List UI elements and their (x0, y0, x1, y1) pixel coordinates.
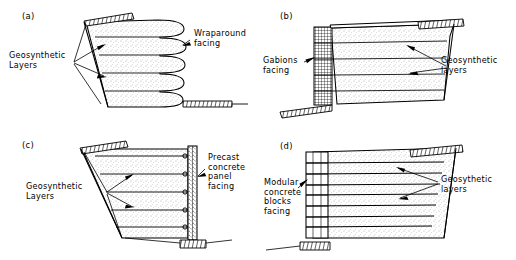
panel-c-label-geosynthetic-layers: Geosynthetic Layers (26, 182, 83, 201)
precast-concrete-panel-facing (188, 146, 197, 240)
panel-a-label-geosynthetic-layers: Geosynthetic Layers (9, 51, 66, 70)
figure-geosynthetic-wall-facings: (a) (0, 0, 516, 260)
panel-d-label-geosynthetic-layers: Geosythetic layers (441, 175, 492, 194)
panel-a-wraparound: (a) (0, 0, 258, 130)
panel-a-label-wraparound-facing: Wraparound facing (194, 29, 246, 48)
foundation-b (280, 105, 332, 118)
precast-arrowhead (197, 173, 206, 177)
panel-b-gabions: (b) (258, 0, 516, 130)
footing-d (300, 242, 330, 250)
panel-c-precast-panel: (c) (0, 130, 258, 260)
soil-mass-d (313, 148, 456, 238)
soil-mass-b (331, 24, 454, 104)
soil-mass-a (86, 20, 186, 107)
foundation-a (183, 101, 248, 107)
panel-d-modular-blocks: (d) (258, 130, 516, 260)
footing-c (180, 240, 206, 248)
soil-mass-c (82, 149, 188, 238)
panel-d-label-modular-concrete-blocks-facing: Modular concrete blocks facing (264, 178, 301, 216)
panel-b-label-gabions-facing: Gabions facing (263, 56, 298, 75)
panel-c-label-precast-concrete-panel-facing: Precast concrete panel facing (208, 153, 245, 191)
gabions-facing (314, 27, 332, 105)
ground-surface-b (418, 19, 464, 29)
panel-b-label-geosynthetic-layers: Geosynthetic layers (441, 56, 498, 75)
